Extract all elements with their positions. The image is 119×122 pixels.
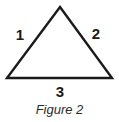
side-label-base: 3 xyxy=(52,84,68,99)
side-label-left: 1 xyxy=(12,27,28,42)
figure-container: 1 2 3 Figure 2 xyxy=(0,0,119,122)
figure-caption: Figure 2 xyxy=(0,102,119,118)
side-label-right: 2 xyxy=(88,26,104,41)
